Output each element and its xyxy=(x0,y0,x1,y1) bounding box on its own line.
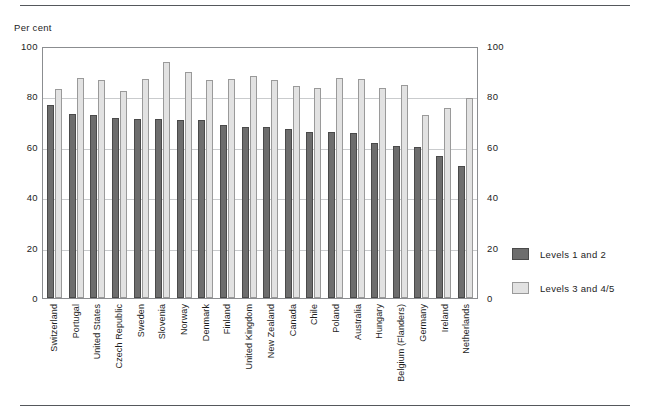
bar-levels-1-2 xyxy=(350,133,357,298)
bar-group xyxy=(303,48,325,298)
y-axis-unit-label: Per cent xyxy=(14,22,52,33)
x-axis-label: United States xyxy=(92,304,102,359)
x-axis-label: Australia xyxy=(353,304,363,340)
y-axis-left-tick: 0 xyxy=(8,294,38,304)
x-label-cell: Czech Republic xyxy=(108,302,130,398)
bar-group xyxy=(87,48,109,298)
x-label-cell: Belgium (Flanders) xyxy=(390,302,412,398)
bar-levels-3-45 xyxy=(422,115,429,298)
top-divider-rule xyxy=(20,5,630,6)
bar-levels-3-45 xyxy=(77,78,84,299)
x-label-cell: Sweden xyxy=(130,302,152,398)
bar-levels-1-2 xyxy=(458,166,465,298)
bar-levels-1-2 xyxy=(242,127,249,298)
bar-levels-1-2 xyxy=(134,119,141,298)
bar-levels-1-2 xyxy=(263,127,270,298)
bar-levels-3-45 xyxy=(293,86,300,298)
x-axis-label: Poland xyxy=(331,304,341,333)
bar-levels-3-45 xyxy=(142,79,149,298)
bar-levels-1-2 xyxy=(112,118,119,298)
x-label-cell: New Zealand xyxy=(260,302,282,398)
x-axis-label: Canada xyxy=(288,304,298,336)
bar-levels-3-45 xyxy=(185,72,192,298)
x-axis-label: Slovenia xyxy=(157,304,167,339)
x-axis-label: Czech Republic xyxy=(114,304,124,368)
bar-levels-1-2 xyxy=(414,147,421,298)
bar-levels-3-45 xyxy=(379,88,386,298)
light-swatch-icon xyxy=(512,282,529,294)
bar-group xyxy=(174,48,196,298)
x-axis-label: Denmark xyxy=(201,304,211,341)
bar-group xyxy=(346,48,368,298)
bar-group xyxy=(282,48,304,298)
legend-item[interactable]: Levels 3 and 4/5 xyxy=(512,282,615,294)
bar-group xyxy=(390,48,412,298)
bar-levels-3-45 xyxy=(206,80,213,298)
bar-group xyxy=(238,48,260,298)
x-axis-label: New Zealand xyxy=(266,304,276,358)
bar-levels-1-2 xyxy=(177,120,184,298)
bar-group xyxy=(66,48,88,298)
bar-levels-1-2 xyxy=(436,156,443,298)
bar-levels-3-45 xyxy=(358,79,365,298)
bar-levels-1-2 xyxy=(393,146,400,298)
bar-levels-1-2 xyxy=(155,119,162,298)
x-label-cell: Norway xyxy=(173,302,195,398)
x-axis-category-labels: SwitzerlandPortugalUnited StatesCzech Re… xyxy=(42,302,478,398)
x-axis-label: United Kingdom xyxy=(244,304,254,369)
bar-levels-3-45 xyxy=(228,79,235,298)
y-axis-left-tick: 100 xyxy=(8,42,38,52)
y-axis-left-tick: 80 xyxy=(8,92,38,102)
x-label-cell: United States xyxy=(86,302,108,398)
bar-levels-1-2 xyxy=(198,120,205,298)
dark-swatch-icon xyxy=(512,248,529,260)
bar-levels-1-2 xyxy=(220,125,227,298)
y-axis-right-tick: 100 xyxy=(487,42,517,52)
y-axis-left-ticks: 020406080100 xyxy=(8,47,38,299)
bar-levels-3-45 xyxy=(250,76,257,298)
bar-levels-1-2 xyxy=(47,105,54,298)
x-axis-label: Netherlands xyxy=(461,304,471,354)
y-axis-left-tick: 40 xyxy=(8,193,38,203)
x-label-cell: Portugal xyxy=(65,302,87,398)
bar-group xyxy=(433,48,455,298)
bottom-divider-rule xyxy=(20,405,630,406)
bar-group xyxy=(368,48,390,298)
bar-levels-3-45 xyxy=(120,91,127,298)
chart-plot-area xyxy=(42,47,478,299)
x-axis-label: Ireland xyxy=(440,304,450,332)
x-axis-label: Sweden xyxy=(136,304,146,337)
bar-levels-1-2 xyxy=(328,132,335,298)
bar-group xyxy=(109,48,131,298)
bar-levels-3-45 xyxy=(314,88,321,298)
bar-levels-1-2 xyxy=(306,132,313,298)
legend-item[interactable]: Levels 1 and 2 xyxy=(512,248,615,260)
bar-levels-3-45 xyxy=(55,89,62,298)
x-label-cell: Poland xyxy=(325,302,347,398)
x-axis-label: Switzerland xyxy=(49,304,59,352)
bar-group xyxy=(130,48,152,298)
bar-groups xyxy=(43,48,477,298)
bar-levels-3-45 xyxy=(401,85,408,298)
bar-levels-1-2 xyxy=(69,114,76,298)
x-axis-label: Chile xyxy=(309,304,319,325)
bar-levels-1-2 xyxy=(371,143,378,298)
x-label-cell: Australia xyxy=(347,302,369,398)
bar-levels-1-2 xyxy=(285,129,292,298)
x-label-cell: Canada xyxy=(282,302,304,398)
bar-group xyxy=(217,48,239,298)
x-label-cell: Finland xyxy=(217,302,239,398)
bar-levels-3-45 xyxy=(271,80,278,298)
bar-levels-1-2 xyxy=(90,115,97,298)
x-label-cell: Hungary xyxy=(369,302,391,398)
x-label-cell: United Kingdom xyxy=(238,302,260,398)
x-label-cell: Switzerland xyxy=(43,302,65,398)
x-axis-label: Portugal xyxy=(71,304,81,338)
bar-group xyxy=(260,48,282,298)
legend-label: Levels 1 and 2 xyxy=(540,249,606,260)
x-label-cell: Germany xyxy=(412,302,434,398)
bar-group xyxy=(454,48,476,298)
bar-levels-3-45 xyxy=(336,78,343,299)
y-axis-right-tick: 60 xyxy=(487,143,517,153)
bar-group xyxy=(152,48,174,298)
